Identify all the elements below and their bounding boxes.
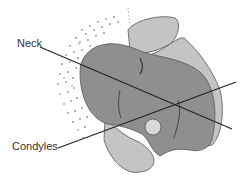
neck-label: Neck xyxy=(17,37,42,49)
condyles-label: Condyles xyxy=(12,140,58,152)
